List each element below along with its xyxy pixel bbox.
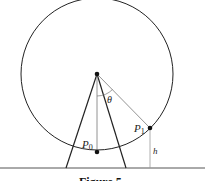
p0-label: P0 bbox=[81, 138, 93, 152]
figure-caption: Figure 5 bbox=[79, 175, 122, 181]
support-leg-left bbox=[66, 74, 97, 168]
p1-label: P1 bbox=[133, 122, 145, 136]
ferris-wheel-diagram: θ P0 P1 h Figure 5 bbox=[0, 0, 205, 181]
h-label: h bbox=[153, 146, 158, 156]
center-point bbox=[95, 72, 100, 77]
point-p1 bbox=[148, 126, 153, 131]
support-leg-right bbox=[97, 74, 126, 168]
theta-label: θ bbox=[107, 94, 112, 105]
point-p0 bbox=[95, 150, 100, 155]
